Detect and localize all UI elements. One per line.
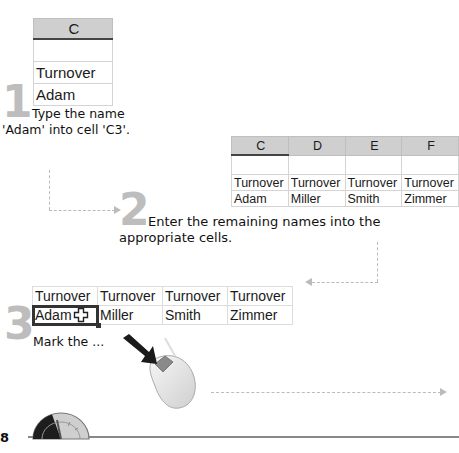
cell[interactable]: Turnover <box>402 175 459 191</box>
cell[interactable]: Adam <box>232 191 289 207</box>
connector-line <box>377 242 378 282</box>
connector-line <box>49 170 50 210</box>
connector-line <box>211 392 441 393</box>
gauge-icon <box>30 412 92 440</box>
cell[interactable]: Adam <box>34 84 113 106</box>
cell-text: Adam <box>35 307 72 323</box>
cell[interactable]: Smith <box>345 191 402 207</box>
cell[interactable]: Miller <box>98 306 163 325</box>
cell[interactable]: Turnover <box>98 287 163 306</box>
step2-text-line1: Enter the remaining names into the <box>148 214 380 230</box>
step1-text-line2: 'Adam' into cell 'C3'. <box>2 122 130 138</box>
connector-line <box>49 210 115 211</box>
column-header-c[interactable]: C <box>34 19 113 40</box>
cell[interactable]: Zimmer <box>402 191 459 207</box>
active-cell[interactable]: Adam <box>33 306 98 325</box>
column-header-e[interactable]: E <box>345 137 402 156</box>
step2-text-line2: appropriate cells. <box>119 230 232 246</box>
cell[interactable]: Turnover <box>345 175 402 191</box>
cell[interactable]: Miller <box>288 191 345 207</box>
cell[interactable] <box>345 155 402 175</box>
footer-divider <box>28 436 459 438</box>
page-number: 8 <box>0 430 9 445</box>
cell[interactable] <box>288 155 345 175</box>
cell[interactable]: Zimmer <box>228 306 293 325</box>
cell[interactable]: Smith <box>163 306 228 325</box>
step-number-2: 2 <box>119 188 150 232</box>
column-header-d[interactable]: D <box>288 137 345 156</box>
column-header-c[interactable]: C <box>232 137 289 156</box>
column-header-f[interactable]: F <box>402 137 459 156</box>
step3-text: Mark the ... <box>33 334 104 350</box>
arrowhead-icon <box>305 278 312 286</box>
cell[interactable]: Turnover <box>232 175 289 191</box>
cell[interactable]: Turnover <box>228 287 293 306</box>
cell[interactable] <box>34 39 113 62</box>
pointer-arrow-icon <box>123 334 157 364</box>
cell[interactable]: Turnover <box>288 175 345 191</box>
arrowhead-icon <box>440 388 447 396</box>
cell-cross-cursor-icon <box>73 307 89 323</box>
fill-handle[interactable] <box>96 323 101 328</box>
step1-spreadsheet: C Turnover Adam <box>33 18 113 106</box>
cell[interactable] <box>232 155 289 175</box>
cell[interactable] <box>402 155 459 175</box>
step-number-3: 3 <box>4 302 35 346</box>
cell[interactable]: Turnover <box>163 287 228 306</box>
step3-spreadsheet: Turnover Turnover Turnover Turnover Adam… <box>32 286 293 325</box>
cell[interactable]: Turnover <box>33 287 98 306</box>
connector-line <box>312 282 378 283</box>
step2-spreadsheet: C D E F Turnover Turnover Turnover Turno… <box>231 136 459 207</box>
step1-text-line1: Type the name <box>32 106 125 122</box>
mouse-icon <box>115 332 215 412</box>
step-number-1: 1 <box>2 80 33 124</box>
cell[interactable]: Turnover <box>34 62 113 84</box>
